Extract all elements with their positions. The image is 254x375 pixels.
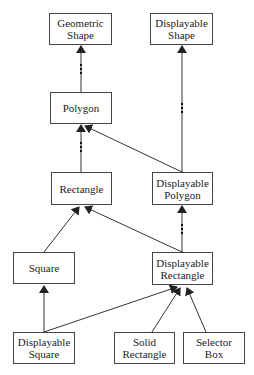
edge-selector-box-to-displayable-rectangle — [187, 288, 206, 332]
node-displayable-square: Displayable Square — [13, 332, 75, 364]
node-label-line1: Displayable — [156, 177, 209, 189]
edge-displayable-square-to-displayable-rectangle — [44, 287, 177, 332]
edge-displayable-polygon-to-polygon — [85, 126, 182, 172]
edge-displayable-rectangle-to-rectangle — [85, 207, 182, 252]
node-displayable-rectangle: Displayable Rectangle — [152, 252, 213, 285]
node-label-line1: Displayable — [156, 257, 209, 269]
edge-square-to-rectangle — [44, 207, 79, 252]
node-square: Square — [13, 252, 75, 284]
node-geometric-shape: Geometric Shape — [49, 13, 112, 45]
inheritance-edges — [0, 0, 254, 375]
node-label-line1: Selector — [196, 336, 232, 348]
node-label-line2: Shape — [67, 29, 94, 41]
node-label-line2: Box — [205, 348, 223, 360]
node-label-line2: Rectangle — [123, 348, 167, 360]
node-label-line2: Shape — [168, 29, 195, 41]
class-hierarchy-diagram: Geometric Shape Displayable Shape Polygo… — [0, 0, 254, 375]
node-label-line1: Solid — [133, 336, 156, 348]
node-polygon: Polygon — [50, 92, 112, 124]
node-label-line2: Square — [29, 348, 60, 360]
edge-solid-rectangle-to-displayable-rectangle — [152, 288, 180, 332]
node-label: Square — [29, 262, 60, 274]
node-displayable-polygon: Displayable Polygon — [152, 172, 213, 205]
node-displayable-shape: Displayable Shape — [150, 13, 213, 45]
node-label-line2: Rectangle — [161, 269, 205, 281]
node-rectangle: Rectangle — [51, 172, 112, 205]
node-label-line2: Polygon — [164, 189, 201, 201]
node-selector-box: Selector Box — [183, 332, 245, 364]
node-label-line1: Geometric — [57, 17, 103, 29]
node-label: Polygon — [63, 102, 100, 114]
node-solid-rectangle: Solid Rectangle — [114, 332, 175, 364]
node-label-line1: Displayable — [155, 17, 208, 29]
node-label-line1: Displayable — [18, 336, 71, 348]
node-label: Rectangle — [60, 183, 104, 195]
